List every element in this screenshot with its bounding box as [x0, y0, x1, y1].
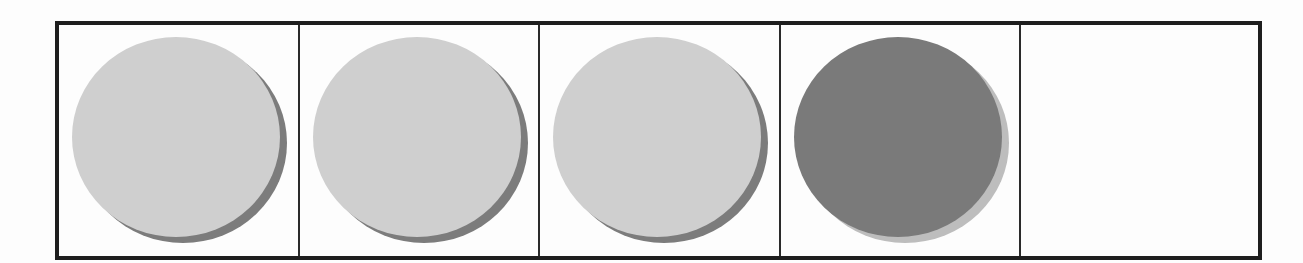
circle-disc	[313, 37, 521, 237]
circle-disc	[72, 37, 280, 237]
circle-disc	[553, 37, 761, 237]
cell-2	[300, 25, 540, 256]
circle-light	[553, 37, 761, 239]
cell-5-empty	[1021, 25, 1258, 256]
circle-dark	[794, 37, 1002, 239]
circle-light	[313, 37, 521, 239]
cell-4	[781, 25, 1021, 256]
cell-1	[59, 25, 300, 256]
fraction-strip	[55, 21, 1262, 260]
cell-3	[540, 25, 781, 256]
circle-light	[72, 37, 280, 239]
circle-disc	[794, 37, 1002, 237]
